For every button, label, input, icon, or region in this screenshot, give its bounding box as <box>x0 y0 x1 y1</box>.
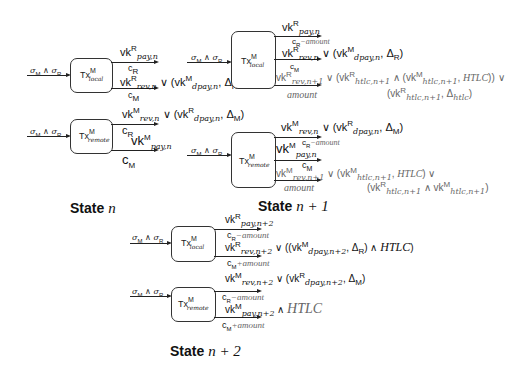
tx-local-label: TxMlocal <box>181 236 211 250</box>
state-n2-title: State n + 2 <box>170 343 241 360</box>
input-arrow-line <box>130 243 168 244</box>
output-key: vkMpay,n <box>276 141 317 159</box>
tx-remote-label: TxMremote <box>178 297 216 311</box>
output-key: vkRrev,n ∨ (vkMdpay,n, ΔR) <box>120 74 241 91</box>
output-key: vkRrev,n ∨ (vkMdpay,n, ΔR) <box>282 45 403 62</box>
output-amount: cM+amount <box>227 258 270 270</box>
tx-local-label: TxMlocal <box>241 54 271 68</box>
input-arrow-line <box>27 136 67 137</box>
output-key: vkMrev,n ∨ (vkRdpay,n, ΔM) <box>281 119 403 136</box>
output-amount: amount <box>284 182 314 193</box>
output-amount: amount <box>287 89 317 100</box>
output-key: vkRpay,n <box>282 19 320 36</box>
input-arrow-line <box>187 62 228 63</box>
tx-remote-label: TxMremote <box>239 154 277 168</box>
output-key: vkMpay,n+2 ∧ HTLC <box>225 301 322 318</box>
output-key: vkMrev,n ∨ (vkRdpay,n, ΔM) <box>122 106 244 123</box>
input-arrow-line <box>187 155 228 156</box>
input-arrow-line <box>130 296 168 297</box>
output-key: vkRrev,n+1 ∨ (vkRhtlc,n+1 ∧ (vkMhtlc,n+1… <box>276 70 505 86</box>
output-amount: cM <box>122 152 135 170</box>
output-key: vkRpay,n <box>120 44 158 61</box>
arrow-head-icon <box>317 158 322 162</box>
output-key: vkMpay,n <box>131 133 172 151</box>
tx-local-label: TxMlocal <box>80 68 110 82</box>
output-amount: cM <box>128 90 139 103</box>
input-label: σM ∧ σR <box>132 233 163 244</box>
input-arrow-line <box>27 75 67 76</box>
output-key-continuation: (vkRhtlc,n+1 ∧ vkMhtlc,n+1) <box>367 180 489 196</box>
output-amount: cM+amount <box>222 320 265 332</box>
tx-remote-label: TxMremote <box>79 129 117 143</box>
output-key: vkMrev,n+2 ∨ (vkRdpay,n+2, ΔM) <box>225 271 365 287</box>
state-n-title: State n <box>70 200 116 217</box>
output-key: vkRrev,n+2 ∨ ((vkMdpay,n+2, ΔR) ∧ HTLC) <box>225 240 414 256</box>
output-key-continuation: (vkRhtlc,n+1, Δhtlc) <box>387 86 472 102</box>
output-key: vkRpay,n+2 <box>225 212 274 228</box>
